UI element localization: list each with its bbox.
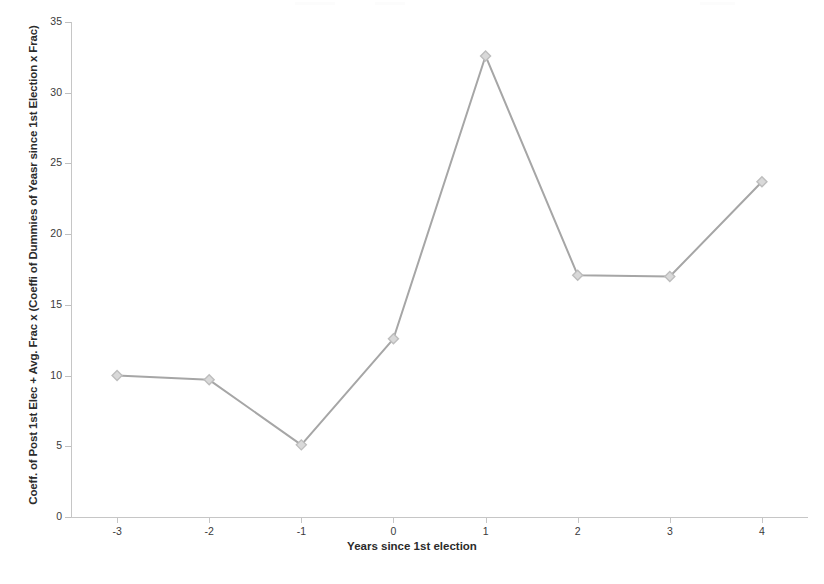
x-tick-mark xyxy=(209,517,210,523)
x-tick-label: -2 xyxy=(184,525,234,537)
x-tick-mark xyxy=(670,517,671,523)
scan-artifact xyxy=(295,2,335,5)
x-tick-label: 4 xyxy=(737,525,787,537)
scan-artifact xyxy=(375,2,405,5)
plot-area: 05101520253035 -3-2-101234 xyxy=(71,22,808,517)
line-series xyxy=(71,22,808,517)
data-point-marker xyxy=(481,51,491,61)
x-tick-label: 3 xyxy=(645,525,695,537)
y-tick-mark xyxy=(65,517,71,518)
x-tick-mark xyxy=(301,517,302,523)
x-tick-label: 2 xyxy=(553,525,603,537)
x-tick-mark xyxy=(486,517,487,523)
x-tick-mark xyxy=(117,517,118,523)
series-line xyxy=(117,56,762,445)
x-tick-mark xyxy=(578,517,579,523)
x-tick-label: 0 xyxy=(368,525,418,537)
x-axis-line xyxy=(71,517,808,518)
data-point-marker xyxy=(573,270,583,280)
x-tick-label: 1 xyxy=(461,525,511,537)
x-axis-title: Years since 1st election xyxy=(0,540,824,552)
x-tick-mark xyxy=(393,517,394,523)
x-tick-mark xyxy=(762,517,763,523)
x-tick-label: -1 xyxy=(276,525,326,537)
scan-artifact xyxy=(700,2,735,5)
chart-page: Coeff. of Post 1st Elec + Avg. Frac x (C… xyxy=(0,0,824,584)
data-point-marker xyxy=(112,371,122,381)
x-tick-label: -3 xyxy=(92,525,142,537)
